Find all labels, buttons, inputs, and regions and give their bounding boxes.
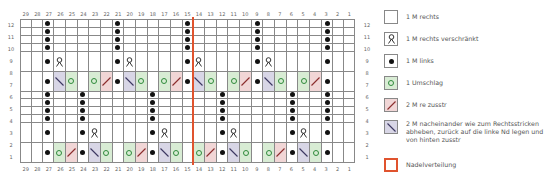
stitch-cell bbox=[66, 92, 78, 100]
stitch-cell bbox=[148, 143, 159, 163]
purl-dot-icon bbox=[45, 100, 50, 105]
stitch-cell bbox=[54, 143, 66, 163]
stitch-cell bbox=[240, 92, 252, 100]
stitch-cell bbox=[159, 52, 171, 72]
column-numbers-top: 2928272625242322212019181716151413121110… bbox=[20, 11, 355, 17]
stitch-cell bbox=[298, 36, 310, 44]
column-number: 1 bbox=[343, 166, 355, 172]
stitch-cell bbox=[171, 99, 183, 107]
stitch-cell bbox=[43, 36, 54, 44]
twisted-knit-icon bbox=[160, 123, 169, 142]
purl-dot-icon bbox=[290, 92, 295, 97]
stitch-cell bbox=[228, 36, 240, 44]
stitch-cell bbox=[333, 115, 344, 123]
stitch-cell bbox=[21, 92, 32, 100]
stitch-cell bbox=[148, 72, 159, 92]
left-slash-icon bbox=[193, 72, 204, 91]
right-slash-icon bbox=[66, 143, 77, 162]
stitch-cell bbox=[252, 92, 263, 100]
stitch-cell bbox=[124, 44, 136, 52]
stitch-cell bbox=[124, 28, 136, 36]
row-number: 12 bbox=[4, 19, 18, 31]
stitch-cell bbox=[263, 99, 275, 107]
purl-dot-icon bbox=[45, 21, 50, 26]
purl-dot-icon bbox=[150, 130, 155, 135]
stitch-cell bbox=[298, 99, 310, 107]
yarn-over-ring-icon bbox=[68, 78, 74, 84]
twisted-knit-icon bbox=[55, 52, 64, 71]
column-number: 21 bbox=[112, 166, 124, 172]
purl-dot-icon bbox=[115, 79, 120, 84]
stitch-cell bbox=[240, 99, 252, 107]
column-number: 18 bbox=[147, 166, 159, 172]
stitch-cell bbox=[171, 72, 183, 92]
row-number: 4 bbox=[4, 115, 18, 127]
purl-dot-icon bbox=[325, 130, 330, 135]
stitch-cell bbox=[217, 72, 228, 92]
purl-dot-icon bbox=[290, 116, 295, 121]
twisted-knit-icon bbox=[299, 123, 308, 142]
stitch-cell bbox=[54, 20, 66, 28]
stitch-cell bbox=[113, 123, 124, 143]
stitch-cell bbox=[66, 44, 78, 52]
stitch-cell bbox=[89, 92, 101, 100]
stitch-cell bbox=[66, 99, 78, 107]
purl-dot-icon bbox=[45, 29, 50, 34]
purl-dot-icon bbox=[290, 108, 295, 113]
purl-dot-icon bbox=[80, 116, 85, 121]
purl-dot-icon bbox=[325, 21, 330, 26]
stitch-cell bbox=[148, 52, 159, 72]
stitch-cell bbox=[275, 52, 287, 72]
stitch-cell bbox=[21, 99, 32, 107]
yarn-over-ring-icon bbox=[266, 150, 272, 156]
stitch-cell bbox=[298, 123, 310, 143]
stitch-cell bbox=[159, 36, 171, 44]
stitch-cell bbox=[322, 72, 333, 92]
column-number: 8 bbox=[263, 166, 275, 172]
twisted-knit-icon bbox=[384, 32, 398, 46]
stitch-cell bbox=[43, 107, 54, 115]
stitch-cell bbox=[275, 99, 287, 107]
stitch-cell bbox=[171, 28, 183, 36]
stitch-cell bbox=[275, 92, 287, 100]
stitch-cell bbox=[101, 123, 113, 143]
purl-dot-icon bbox=[255, 45, 260, 50]
stitch-cell bbox=[54, 52, 66, 72]
purl-dot-icon bbox=[325, 92, 330, 97]
stitch-cell bbox=[148, 92, 159, 100]
stitch-cell bbox=[322, 92, 333, 100]
stitch-cell bbox=[287, 115, 298, 123]
column-number: 20 bbox=[124, 11, 136, 17]
stitch-cell bbox=[66, 115, 78, 123]
purl-dot-icon bbox=[150, 150, 155, 155]
stitch-cell bbox=[205, 72, 217, 92]
stitch-cell bbox=[240, 44, 252, 52]
stitch-cell bbox=[275, 28, 287, 36]
column-number: 18 bbox=[147, 11, 159, 17]
stitch-cell bbox=[101, 36, 113, 44]
twisted-knit-icon bbox=[125, 52, 134, 71]
column-number: 6 bbox=[286, 11, 298, 17]
stitch-cell bbox=[344, 36, 355, 44]
stitch-cell bbox=[333, 72, 344, 92]
stitch-cell bbox=[171, 123, 183, 143]
column-number: 23 bbox=[89, 166, 101, 172]
stitch-cell bbox=[148, 20, 159, 28]
yarn-over-ring-icon bbox=[301, 78, 307, 84]
purl-dot-icon bbox=[325, 79, 330, 84]
row-number: 11 bbox=[4, 31, 18, 43]
stitch-cell bbox=[322, 52, 333, 72]
needle-division-icon bbox=[384, 158, 398, 172]
purl-dot-icon bbox=[220, 92, 225, 97]
purl-dot-icon bbox=[115, 45, 120, 50]
yarn-over-ring-icon bbox=[196, 150, 202, 156]
twisted-knit-icon bbox=[194, 52, 203, 71]
stitch-cell bbox=[275, 72, 287, 92]
stitch-cell bbox=[171, 20, 183, 28]
row-numbers-left: 121110987654321 bbox=[4, 19, 18, 163]
purl-dot-icon bbox=[150, 108, 155, 113]
column-number: 28 bbox=[32, 166, 44, 172]
knitting-chart: 2928272625242322212019181716151413121110… bbox=[0, 0, 375, 190]
legend-item-purl: 1 M links bbox=[384, 54, 434, 68]
left-slash-icon bbox=[263, 72, 274, 91]
